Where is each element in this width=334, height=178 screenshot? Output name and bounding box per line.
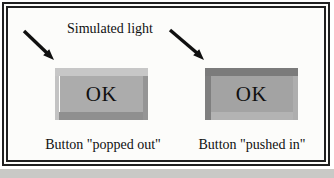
- figure-canvas: Simulated light OK OK Button "popped out…: [0, 0, 334, 178]
- bevel-bottom-shadow: [55, 112, 148, 120]
- bevel-top-highlight: [55, 68, 148, 76]
- pushed-in-button-illustration: OK: [205, 68, 298, 120]
- caption-popped-out: Button "popped out": [28, 136, 178, 153]
- bevel-top-shadow: [205, 68, 298, 76]
- ok-label: OK: [210, 76, 293, 112]
- caption-pushed-in: Button "pushed in": [177, 136, 327, 153]
- scan-edge-artifact: [0, 169, 334, 178]
- bevel-bottom-highlight: [205, 112, 298, 120]
- popped-out-button-illustration: OK: [55, 68, 148, 120]
- ok-label: OK: [60, 76, 143, 112]
- simulated-light-label: Simulated light: [55, 21, 165, 37]
